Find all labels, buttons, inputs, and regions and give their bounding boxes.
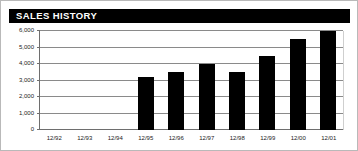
- bar-slot: [222, 31, 252, 130]
- bar[interactable]: [229, 72, 245, 130]
- bar-slot: [101, 31, 131, 130]
- bars-group: [40, 31, 343, 130]
- y-axis-tick-label: 2,000: [19, 93, 34, 99]
- x-axis-tick-label: 12/00: [283, 135, 314, 141]
- bar-slot: [313, 31, 343, 130]
- plot-area: 01,0002,0003,0004,0005,0006,000: [39, 31, 344, 130]
- y-axis-tick-label: 1,000: [19, 110, 34, 116]
- x-axis-tick-label: 12/96: [161, 135, 192, 141]
- x-axis-tick-label: 12/92: [39, 135, 70, 141]
- plot-wrapper: 01,0002,0003,0004,0005,0006,000 12/9212/…: [1, 25, 358, 151]
- bar-slot: [40, 31, 70, 130]
- y-axis-tick-label: 3,000: [19, 77, 34, 83]
- y-axis-tick-label: 5,000: [19, 44, 34, 50]
- y-axis-tick-label: 4,000: [19, 60, 34, 66]
- bar-slot: [131, 31, 161, 130]
- y-axis-tick-label: 6,000: [19, 27, 34, 33]
- x-axis-tick-label: 12/95: [131, 135, 162, 141]
- x-axis-tick-label: 12/01: [314, 135, 345, 141]
- y-axis-tick-label: 0: [31, 126, 34, 132]
- x-axis-tick-label: 12/99: [253, 135, 284, 141]
- bar[interactable]: [259, 56, 275, 130]
- sales-history-chart-figure: SALES HISTORY 01,0002,0003,0004,0005,000…: [0, 0, 358, 151]
- bar-slot: [70, 31, 100, 130]
- x-axis-labels-group: 12/9212/9312/9412/9512/9612/9712/9812/99…: [39, 135, 344, 141]
- bar[interactable]: [168, 72, 184, 130]
- bar[interactable]: [320, 31, 336, 130]
- bar-slot: [191, 31, 221, 130]
- bar[interactable]: [199, 64, 215, 130]
- bar-slot: [252, 31, 282, 130]
- bar[interactable]: [138, 77, 154, 130]
- bar[interactable]: [290, 39, 306, 130]
- x-axis-tick-label: 12/93: [70, 135, 101, 141]
- x-axis-tick-label: 12/94: [100, 135, 131, 141]
- page-title: SALES HISTORY: [9, 11, 97, 21]
- x-axis-tick-label: 12/98: [222, 135, 253, 141]
- bar-slot: [161, 31, 191, 130]
- bar-slot: [282, 31, 312, 130]
- x-axis-tick-label: 12/97: [192, 135, 223, 141]
- chart-title-banner: SALES HISTORY: [9, 9, 350, 23]
